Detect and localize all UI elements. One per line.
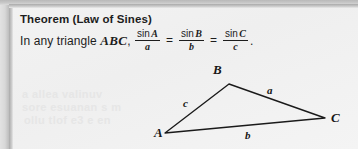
theorem-statement: In any triangle ABC , sinA a = sinB b xyxy=(20,29,310,53)
fraction-sin-b-over-b: sinB b xyxy=(179,28,204,52)
triangle-name: ABC xyxy=(100,33,127,49)
fraction-denominator: c xyxy=(231,41,239,53)
page-bottom-margin xyxy=(0,149,358,156)
page-edge-shadow-top xyxy=(9,4,358,8)
angle-variable: B xyxy=(195,28,202,39)
fraction-denominator: b xyxy=(187,41,196,53)
fraction-sin-a-over-a: sinA a xyxy=(135,28,160,52)
sentence-period: . xyxy=(250,33,253,49)
sin-function-label: sin xyxy=(181,28,194,39)
side-label-c: c xyxy=(183,97,188,109)
equals-sign: = xyxy=(166,32,173,48)
side-label-a: a xyxy=(267,84,273,96)
vertex-label-a: A xyxy=(154,125,163,141)
fraction-numerator: sinB xyxy=(179,28,204,40)
angle-variable: A xyxy=(151,28,158,39)
fraction-sin-c-over-c: sinC c xyxy=(223,28,248,52)
angle-variable: C xyxy=(239,28,246,39)
vertex-label-c: C xyxy=(331,110,340,126)
theorem-title: Theorem (Law of Sines) xyxy=(20,12,310,27)
fraction-numerator: sinC xyxy=(223,28,248,40)
scan-gutter-left xyxy=(0,0,9,156)
document-page: a allea valinuv sore esuanan s m ollu tl… xyxy=(0,0,358,156)
fraction-denominator: a xyxy=(143,41,152,53)
sin-function-label: sin xyxy=(225,28,238,39)
theorem-lead-text: In any triangle xyxy=(20,33,97,49)
vertex-label-b: B xyxy=(213,62,222,78)
equals-sign: = xyxy=(210,32,217,48)
fraction-numerator: sinA xyxy=(135,28,160,40)
triangle-outline xyxy=(165,84,325,133)
triangle-figure: B C A a b c xyxy=(13,55,358,149)
theorem-block: Theorem (Law of Sines) In any triangle A… xyxy=(20,12,310,53)
side-label-b: b xyxy=(245,129,251,141)
sin-function-label: sin xyxy=(137,28,150,39)
